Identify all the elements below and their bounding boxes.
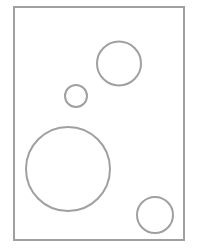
circle-4 (137, 197, 173, 233)
circle-2 (65, 85, 87, 107)
frame-rectangle (14, 7, 184, 240)
circles-group (26, 42, 173, 234)
circle-1 (97, 42, 141, 86)
circle-3 (26, 127, 110, 211)
diagram-canvas (0, 0, 198, 250)
